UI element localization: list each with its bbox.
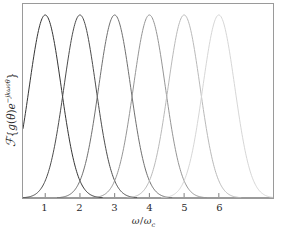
y-label-exponent-tail: θ [4,79,12,83]
x-tick-label-2: 2 [76,201,82,214]
y-label-exponent-subscript: 0 [5,83,11,86]
x-tick-label-4: 4 [146,201,152,214]
fourier-operator-symbol: ℱ [3,137,18,147]
curves-svg [23,4,273,198]
curve-series-4 [93,15,207,198]
y-axis-label-container: ℱ{g(θ)e−jkω0θ} [0,45,20,175]
y-label-arg: θ [5,113,17,119]
y-label-brace-open: { [5,131,17,138]
x-label-subscript: c [152,221,156,229]
x-tick-label-5: 5 [181,201,187,214]
x-tick-label-6: 6 [216,201,222,214]
x-axis-label: ω/ωc [0,215,287,229]
x-axis-tick-labels: 123456 [22,201,274,215]
y-axis-label: ℱ{g(θ)e−jkω0θ} [3,73,18,148]
y-label-exponent: −jkω [4,86,12,103]
y-label-arg-close: ) [5,109,17,113]
curve-series-3 [58,15,172,198]
y-label-function: g [5,124,17,131]
curve-series-6 [162,15,273,198]
x-tick-label-3: 3 [111,201,117,214]
y-label-brace-close: } [5,73,17,80]
figure-canvas: ℱ{g(θ)e−jkω0θ} 123456 ω/ωc [0,0,287,232]
x-tick-label-1: 1 [41,201,47,214]
x-label-omega-denominator: ω [144,215,152,226]
plot-area [22,3,274,199]
y-label-exp-base: e [5,103,17,109]
x-label-omega-numerator: ω [132,215,140,226]
curve-series-2 [23,15,137,198]
curve-series-5 [127,15,241,198]
y-label-arg-open: ( [5,120,17,124]
curve-series-1 [23,15,102,198]
